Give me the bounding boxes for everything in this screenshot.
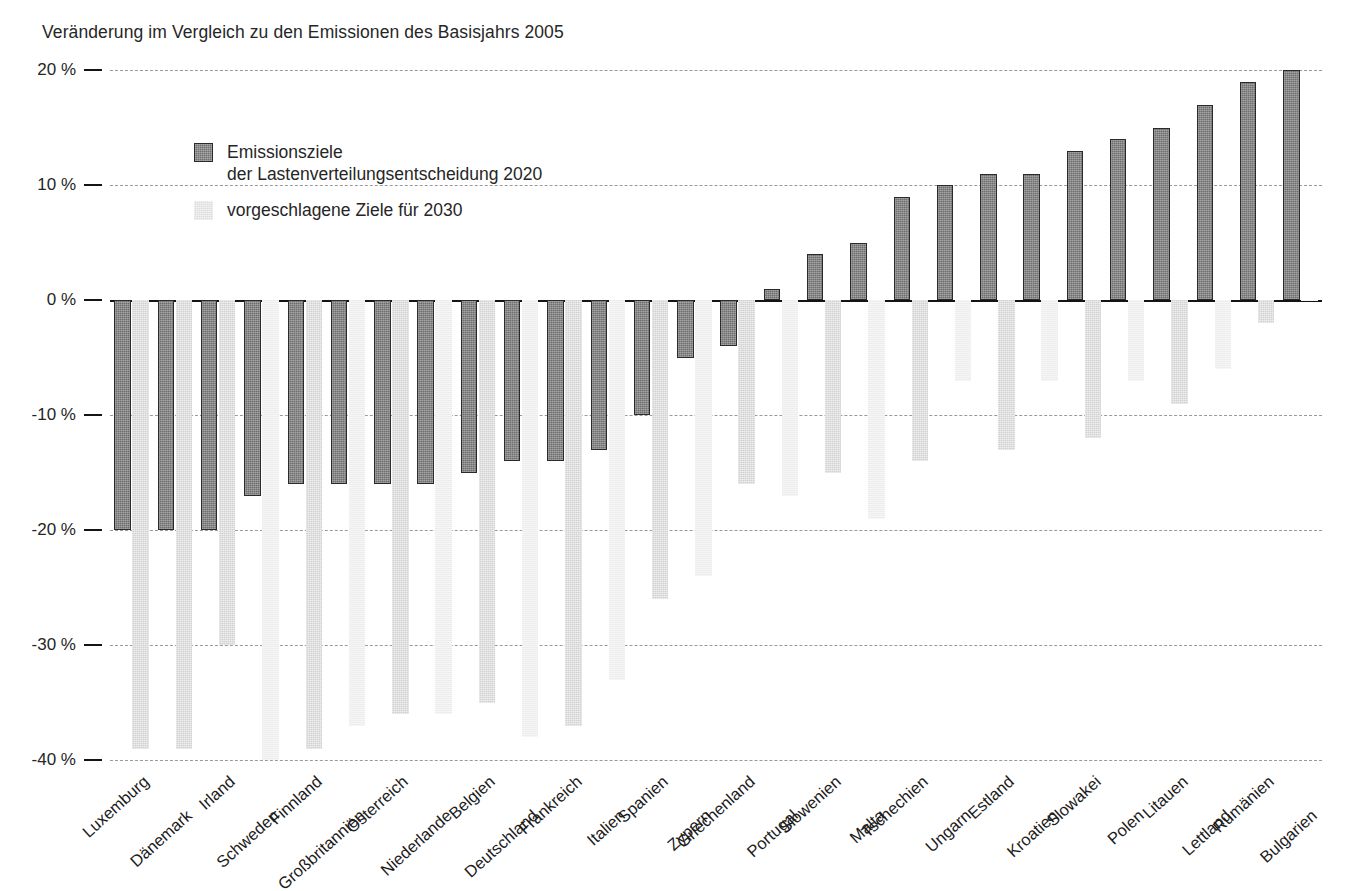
bar-2020 xyxy=(1197,105,1214,301)
bar-2020 xyxy=(331,300,348,484)
y-axis-tick-mark xyxy=(84,69,102,71)
bar-2030 xyxy=(132,300,149,749)
x-axis-category-label: Finnland xyxy=(266,772,326,828)
bar-2030 xyxy=(955,300,972,381)
bar-2020 xyxy=(374,300,391,484)
bar-2020 xyxy=(677,300,694,358)
x-axis-category-label: Malta xyxy=(846,806,889,847)
x-axis-category-label: Zypern xyxy=(664,806,715,854)
bar-2020 xyxy=(158,300,175,530)
bar-2020 xyxy=(288,300,305,484)
bar-2020 xyxy=(1240,82,1257,301)
bar-2020 xyxy=(764,289,781,301)
page-title: Veränderung im Vergleich zu den Emission… xyxy=(42,22,564,43)
x-axis-category-label: Ungarn xyxy=(922,806,975,856)
bar-2030 xyxy=(912,300,929,461)
x-axis-category-label: Polen xyxy=(1104,806,1148,848)
bar-2020 xyxy=(1283,70,1300,300)
plot-area xyxy=(110,70,1322,760)
x-axis-category-label: Litauen xyxy=(1138,772,1191,822)
x-axis-category-label: Spanien xyxy=(614,772,672,827)
bar-2020 xyxy=(461,300,478,473)
x-axis-category-label: Estland xyxy=(964,772,1018,823)
bar-2030 xyxy=(609,300,626,680)
y-axis-tick-label: -10 % xyxy=(0,405,76,425)
y-axis-tick-label: -40 % xyxy=(0,750,76,770)
bar-2030 xyxy=(738,300,755,484)
gridline xyxy=(110,530,1322,531)
x-axis-category-label: Slowenien xyxy=(776,772,845,837)
y-axis-tick-label: -30 % xyxy=(0,635,76,655)
bar-2030 xyxy=(1171,300,1188,404)
y-axis-tick-label: 0 % xyxy=(0,290,76,310)
bar-2030 xyxy=(652,300,669,599)
gridline xyxy=(110,185,1322,186)
bar-2030 xyxy=(219,300,236,645)
x-axis-category-label: Portugal xyxy=(743,806,801,861)
bar-2020 xyxy=(850,243,867,301)
bar-2030 xyxy=(782,300,799,496)
x-axis-category-label: Rumänien xyxy=(1209,772,1278,836)
bar-2030 xyxy=(1128,300,1145,381)
x-axis-category-label: Kroatien xyxy=(1003,806,1061,861)
y-axis-tick-label: 20 % xyxy=(0,60,76,80)
bar-2020 xyxy=(807,254,824,300)
bar-2020 xyxy=(417,300,434,484)
bar-2030 xyxy=(1215,300,1232,369)
bar-2020 xyxy=(937,185,954,300)
bar-2020 xyxy=(114,300,131,530)
bar-2020 xyxy=(1067,151,1084,301)
x-axis-category-label: Tschechien xyxy=(857,772,931,841)
x-axis-category-label: Dänemark xyxy=(126,806,195,871)
bar-2020 xyxy=(1023,174,1040,301)
x-axis-category-label: Großbritannien xyxy=(274,806,369,891)
bar-2030 xyxy=(392,300,409,714)
x-axis-category-label: Belgien xyxy=(445,772,499,823)
bar-2020 xyxy=(504,300,521,461)
x-axis-category-label: Slowakei xyxy=(1043,772,1105,830)
bar-2020 xyxy=(980,174,997,301)
x-axis-category-label: Luxemburg xyxy=(78,772,152,841)
x-axis-category-label: Schweden xyxy=(212,806,282,872)
y-axis-tick-label: -20 % xyxy=(0,520,76,540)
y-axis-tick-label: 10 % xyxy=(0,175,76,195)
bar-2030 xyxy=(1258,300,1275,323)
bar-2020 xyxy=(201,300,218,530)
y-axis-tick-mark xyxy=(84,759,102,761)
bar-2030 xyxy=(868,300,885,519)
bar-2030 xyxy=(349,300,366,726)
x-axis-category-label: Irland xyxy=(196,772,239,814)
x-axis-category-label: Lettland xyxy=(1178,806,1234,859)
bar-2030 xyxy=(1041,300,1058,381)
y-axis-tick-mark xyxy=(84,644,102,646)
bar-2030 xyxy=(998,300,1015,450)
gridline xyxy=(110,760,1322,761)
gridline xyxy=(110,70,1322,71)
x-axis-category-label: Frankreich xyxy=(515,772,586,838)
bar-2030 xyxy=(695,300,712,576)
x-axis-category-label: Österreich xyxy=(343,772,412,837)
bar-2030 xyxy=(565,300,582,726)
y-axis-tick-mark xyxy=(84,529,102,531)
gridline xyxy=(110,645,1322,646)
bar-2020 xyxy=(894,197,911,301)
bar-2020 xyxy=(591,300,608,450)
x-axis-category-label: Niederlande xyxy=(377,806,456,880)
bar-2030 xyxy=(1301,300,1318,301)
x-axis-category-label: Deutschland xyxy=(461,806,542,882)
x-axis-category-label: Italien xyxy=(583,806,628,850)
bar-2020 xyxy=(244,300,261,496)
x-axis-category-label: Bulgarien xyxy=(1257,806,1322,867)
bar-2020 xyxy=(634,300,651,415)
bar-2030 xyxy=(825,300,842,473)
bar-2030 xyxy=(435,300,452,714)
bar-2020 xyxy=(720,300,737,346)
bar-2020 xyxy=(1110,139,1127,300)
y-axis-tick-mark xyxy=(84,414,102,416)
y-axis-tick-mark xyxy=(84,299,102,301)
bar-2030 xyxy=(262,300,279,760)
bar-2020 xyxy=(1153,128,1170,301)
bar-2030 xyxy=(522,300,539,737)
x-axis-category-label: Griechenland xyxy=(673,772,759,852)
y-axis-tick-mark xyxy=(84,184,102,186)
